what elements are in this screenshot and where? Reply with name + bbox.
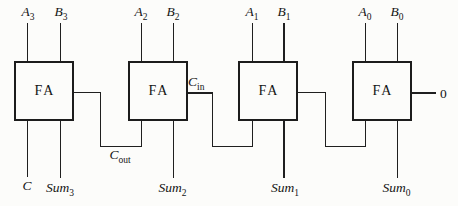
label-sub: 2 — [143, 12, 148, 22]
initial-carry-wire — [412, 92, 436, 94]
label-sub: out — [118, 155, 130, 165]
carry-wire-cin-seg4 — [252, 121, 254, 147]
input-wire-a1 — [252, 23, 254, 62]
label-base: C — [188, 74, 197, 89]
carry-wire-cin-seg1 — [188, 92, 213, 94]
label-base: A — [135, 4, 143, 19]
carry-wire-cout-seg2 — [100, 92, 102, 148]
carry-wire-cin-seg2 — [212, 92, 214, 147]
label-base: C — [22, 178, 31, 193]
fa-box-label: FA — [33, 84, 56, 98]
label-base: B — [278, 4, 286, 19]
label-base: A — [22, 4, 30, 19]
sum2-wire — [173, 121, 175, 178]
label-base: B — [55, 4, 63, 19]
carry-wire-10-seg4 — [365, 121, 367, 147]
input-wire-b3 — [60, 23, 62, 62]
sum3-wire — [60, 121, 62, 178]
carry-wire-10-seg3 — [325, 146, 367, 148]
input-wire-b0 — [397, 23, 399, 62]
label-sub: 0 — [399, 12, 404, 22]
final-carry-wire — [27, 121, 29, 177]
label-sub: 3 — [69, 188, 74, 198]
fa-box-label: FA — [257, 84, 280, 98]
carry-out-label: Cout — [109, 148, 130, 162]
input-label-b0: B0 — [391, 5, 404, 19]
label-base: Sum — [46, 180, 69, 195]
label-sub: 3 — [30, 12, 35, 22]
label-sub: 2 — [175, 12, 180, 22]
label-base: Sum — [271, 180, 294, 195]
carry-wire-cout-seg1 — [74, 92, 101, 94]
output-label-sum1: Sum1 — [271, 181, 299, 195]
input-wire-a2 — [141, 23, 143, 62]
input-wire-b2 — [173, 23, 175, 62]
label-base: B — [167, 4, 175, 19]
output-label-sum0: Sum0 — [383, 181, 411, 195]
full-adder-box-2: FA — [128, 61, 188, 121]
label-base: 0 — [440, 86, 447, 101]
input-wire-a0 — [365, 23, 367, 62]
carry-wire-10-seg2 — [325, 92, 327, 148]
label-sub: 3 — [63, 12, 68, 22]
label-sub: 2 — [182, 188, 187, 198]
input-label-b3: B3 — [55, 5, 68, 19]
label-base: Sum — [383, 180, 406, 195]
carry-wire-cout-seg3 — [100, 146, 143, 148]
label-sub: 0 — [367, 12, 372, 22]
input-wire-b1 — [283, 23, 285, 62]
label-base: B — [391, 4, 399, 19]
label-sub: 1 — [286, 12, 291, 22]
label-base: A — [246, 4, 254, 19]
fa-box-label: FA — [371, 84, 394, 98]
carry-in-label: Cin — [188, 75, 204, 89]
label-sub: 1 — [254, 12, 259, 22]
input-label-a0: A0 — [359, 5, 372, 19]
full-adder-box-0: FA — [352, 61, 412, 121]
label-base: Sum — [159, 180, 182, 195]
sum1-wire — [283, 121, 285, 178]
input-label-a2: A2 — [135, 5, 148, 19]
label-sub: 1 — [294, 188, 299, 198]
output-label-carry: C — [22, 179, 31, 193]
input-label-a1: A1 — [246, 5, 259, 19]
input-label-b1: B1 — [278, 5, 291, 19]
label-sub: in — [197, 82, 204, 92]
output-label-sum2: Sum2 — [159, 181, 187, 195]
carry-wire-cin-seg3 — [212, 146, 254, 148]
label-base: A — [359, 4, 367, 19]
label-base: C — [109, 147, 118, 162]
full-adder-box-1: FA — [238, 61, 298, 121]
input-wire-a3 — [27, 23, 29, 62]
input-label-b2: B2 — [167, 5, 180, 19]
output-label-sum3: Sum3 — [46, 181, 74, 195]
sum0-wire — [397, 121, 399, 178]
full-adder-box-3: FA — [14, 61, 74, 121]
fa-box-label: FA — [147, 84, 170, 98]
input-label-a3: A3 — [22, 5, 35, 19]
ripple-carry-adder-diagram: A3 B3 FA C Sum3 Cout A2 B2 FA Sum2 Cin A… — [0, 0, 458, 206]
initial-carry-label: 0 — [440, 87, 447, 101]
carry-wire-cout-seg4 — [141, 121, 143, 147]
label-sub: 0 — [406, 188, 411, 198]
carry-wire-10-seg1 — [298, 92, 326, 94]
